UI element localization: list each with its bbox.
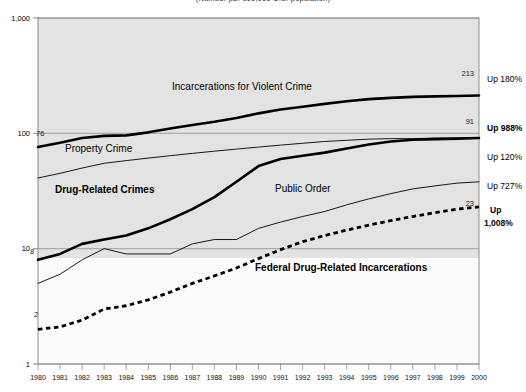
- xtick-label-1999: 1999: [449, 374, 465, 381]
- point-label-violent-start: 76: [36, 129, 44, 138]
- xtick-label-1993: 1993: [317, 374, 333, 381]
- point-label-federal-end: 23: [466, 199, 474, 208]
- xtick-label-1982: 1982: [74, 374, 90, 381]
- xtick-label-2000: 2000: [471, 374, 487, 381]
- xtick-label-1983: 1983: [96, 374, 112, 381]
- xtick-label-1986: 1986: [163, 374, 179, 381]
- xtick-label-1996: 1996: [383, 374, 399, 381]
- xtick-label-1984: 1984: [118, 374, 134, 381]
- xtick-label-1992: 1992: [295, 374, 311, 381]
- xtick-label-1991: 1991: [273, 374, 289, 381]
- xtick-marks: [38, 364, 479, 370]
- chart-container: (Number per 100,000 U.S. population) 1,0…: [0, 0, 526, 392]
- growth-label-property: Up 120%: [487, 152, 522, 162]
- point-label-property-end: 91: [466, 117, 474, 126]
- ytick-label-100: 100: [17, 129, 30, 138]
- chart-svg: 1,000 100 10 1: [0, 0, 526, 392]
- growth-label-drug: Up 988%: [487, 123, 523, 133]
- annotation-property-crime: Property Crime: [65, 143, 133, 154]
- xtick-label-1989: 1989: [229, 374, 245, 381]
- xtick-label-1998: 1998: [427, 374, 443, 381]
- annotation-public-order: Public Order: [275, 183, 331, 194]
- point-label-federal-start: 2: [34, 310, 38, 319]
- annotation-federal-drug-related-incarcerations: Federal Drug-Related Incarcerations: [255, 262, 428, 273]
- annotation-drug-related-crimes: Drug-Related Crimes: [55, 184, 155, 195]
- xtick-label-1995: 1995: [361, 374, 377, 381]
- xtick-label-1987: 1987: [185, 374, 201, 381]
- ytick-label-1: 1: [26, 360, 30, 369]
- growth-label-federal-line2: 1,008%: [484, 218, 513, 228]
- annotation-incarcerations-for-violent-crime: Incarcerations for Violent Crime: [172, 81, 312, 92]
- xtick-label-1985: 1985: [140, 374, 156, 381]
- xtick-label-1990: 1990: [251, 374, 267, 381]
- ytick-label-1000: 1,000: [11, 14, 30, 23]
- plot-lower-band: [38, 258, 479, 364]
- growth-label-federal-line1: Up: [490, 205, 501, 215]
- point-label-violent-end: 213: [461, 69, 474, 78]
- xtick-label-1994: 1994: [339, 374, 355, 381]
- growth-label-violent: Up 180%: [487, 74, 522, 84]
- xtick-label-1988: 1988: [207, 374, 223, 381]
- xtick-label-1980: 1980: [30, 374, 46, 381]
- xtick-label-1981: 1981: [52, 374, 68, 381]
- ytick-label-10: 10: [22, 244, 30, 253]
- point-label-drug-start: 8: [30, 247, 34, 256]
- chart-title: (Number per 100,000 U.S. population): [0, 0, 526, 3]
- growth-label-public-order: Up 727%: [487, 181, 522, 191]
- xtick-label-1997: 1997: [405, 374, 421, 381]
